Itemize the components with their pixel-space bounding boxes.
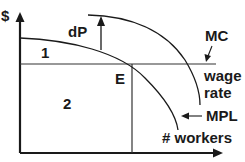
shifted-mpl-curve	[88, 15, 200, 105]
x-axis-arrow-icon	[213, 149, 223, 158]
equilibrium-label: E	[115, 70, 125, 87]
y-axis-arrow-icon	[16, 12, 25, 22]
mpl-arrow-icon	[181, 113, 189, 120]
mpl-label: MPL	[206, 107, 238, 124]
y-axis-label: $	[1, 7, 10, 24]
mc-pointer	[205, 46, 213, 62]
rate-label: rate	[204, 84, 232, 101]
wage-label: wage	[203, 67, 242, 84]
area-1-label: 1	[41, 44, 49, 61]
y-axis	[16, 12, 25, 153]
mpl-pointer	[181, 113, 202, 120]
x-axis-label: # workers	[162, 129, 232, 146]
x-axis	[20, 149, 223, 158]
dp-arrow-icon	[97, 16, 105, 26]
dp-arrow	[97, 16, 105, 50]
area-2-label: 2	[63, 95, 71, 112]
dp-label: dP	[68, 23, 87, 40]
mc-label: MC	[205, 27, 228, 44]
labor-market-diagram: $ dP MC 1 E wage rate 2 MPL # workers	[0, 0, 245, 162]
mc-arrow-icon	[205, 54, 212, 62]
